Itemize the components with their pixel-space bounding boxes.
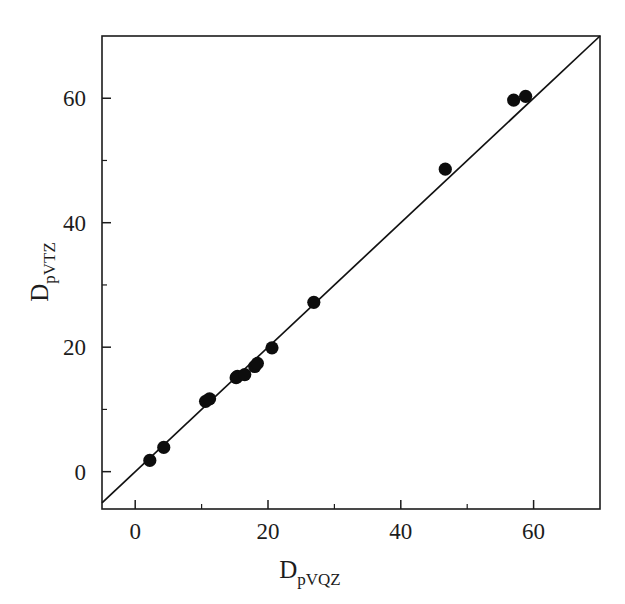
y-tick-label-20: 20 xyxy=(63,335,86,360)
data-point xyxy=(157,441,170,454)
data-point xyxy=(307,296,320,309)
x-tick-label-60: 60 xyxy=(522,519,545,544)
y-axis-title-base: D xyxy=(26,284,53,302)
data-point xyxy=(251,357,264,370)
y-tick-label-0: 0 xyxy=(75,460,87,485)
identity-reference-line xyxy=(102,36,600,503)
data-point xyxy=(507,94,520,107)
y-tick-label-40: 40 xyxy=(63,211,86,236)
data-point xyxy=(439,163,452,176)
x-axis-title-subscript: pVQZ xyxy=(297,570,340,589)
y-axis-title: DpVTZ xyxy=(26,242,59,302)
x-axis-tick-labels: 0204060 xyxy=(129,519,545,544)
y-axis-title-subscript: pVTZ xyxy=(40,242,59,284)
x-tick-label-0: 0 xyxy=(129,519,141,544)
scatter-plot-figure: 0204060 0204060 DpVQZ DpVTZ xyxy=(0,0,625,604)
plot-canvas: 0204060 0204060 DpVQZ DpVTZ xyxy=(0,0,625,604)
y-axis-tick-labels: 0204060 xyxy=(63,86,86,484)
data-point xyxy=(519,90,532,103)
svg-text:DpVTZ: DpVTZ xyxy=(26,242,59,302)
x-axis-title-base: D xyxy=(279,556,297,583)
y-tick-label-60: 60 xyxy=(63,86,86,111)
x-tick-label-20: 20 xyxy=(257,519,280,544)
data-point xyxy=(143,454,156,467)
data-point xyxy=(203,392,216,405)
x-axis-title: DpVQZ xyxy=(279,556,341,589)
svg-text:DpVQZ: DpVQZ xyxy=(279,556,341,589)
data-point xyxy=(265,341,278,354)
x-tick-label-40: 40 xyxy=(389,519,412,544)
